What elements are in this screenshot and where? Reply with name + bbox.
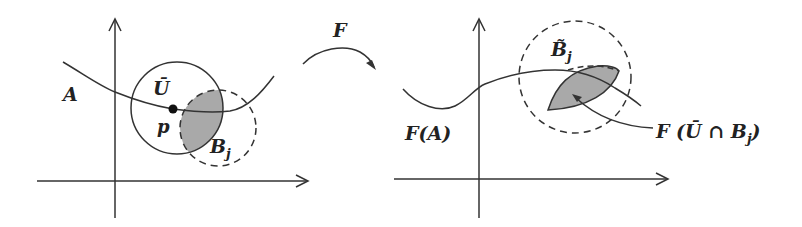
arrowhead-icon — [366, 60, 376, 70]
point-p — [169, 105, 178, 114]
label-A: A — [61, 83, 78, 105]
label-U-bar: Ū — [153, 77, 171, 99]
label-F: F — [332, 19, 348, 41]
mapping-F: F — [303, 19, 376, 70]
left-axes — [37, 19, 308, 218]
right-panel: F(A) B̃j F (Ū ∩ Bj) — [394, 19, 761, 218]
label-p: p — [157, 116, 170, 137]
label-Bj: Bj — [209, 135, 231, 161]
mapping-arrow — [303, 48, 374, 67]
diffeomorphism-diagram: A Ū p Bj F F(A) B̃j — [0, 0, 802, 227]
label-F-of-U-cap-Bj: F (Ū ∩ Bj) — [655, 120, 761, 146]
right-axes — [394, 19, 668, 218]
label-F-of-A: F(A) — [404, 122, 451, 144]
label-Bj-tilde: B̃j — [550, 38, 572, 64]
left-panel: A Ū p Bj — [37, 19, 308, 218]
